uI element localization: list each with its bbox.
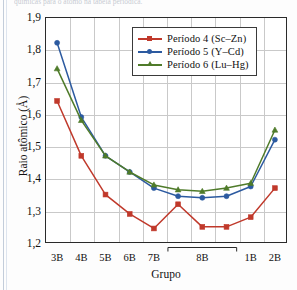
data-point-marker xyxy=(103,192,108,197)
data-point-marker xyxy=(55,40,60,45)
legend-label-periodo-5: Período 5 (Y–Cd) xyxy=(167,46,244,57)
data-point-marker xyxy=(152,226,157,231)
legend-label-periodo-4: Período 4 (Sc–Zn) xyxy=(167,33,246,44)
legend-label-periodo-6: Período 6 (Lu–Hg) xyxy=(167,59,249,70)
data-point-marker xyxy=(273,186,278,191)
data-point-marker xyxy=(224,194,229,199)
legend-swatch-periodo-6 xyxy=(138,60,162,70)
legend-swatch-periodo-5 xyxy=(138,47,162,57)
data-point-marker xyxy=(127,212,132,217)
legend-marker-icon xyxy=(147,36,152,41)
data-point-marker xyxy=(200,195,205,200)
data-point-marker xyxy=(55,99,60,104)
legend-item-periodo-4: Período 4 (Sc–Zn) xyxy=(138,32,249,45)
series-3 xyxy=(54,66,278,194)
data-point-marker xyxy=(176,194,181,199)
legend-swatch-periodo-4 xyxy=(138,34,162,44)
legend-item-periodo-5: Período 5 (Y–Cd) xyxy=(138,45,249,58)
data-point-marker xyxy=(200,224,205,229)
legend-item-periodo-6: Período 6 (Lu–Hg) xyxy=(138,58,249,71)
legend-marker-icon xyxy=(147,49,152,54)
series-1 xyxy=(55,99,278,231)
data-point-marker xyxy=(272,137,277,142)
group-8b-bracket xyxy=(168,248,237,252)
data-point-marker xyxy=(248,215,253,220)
figure-atomic-radius-chart: químicas para o átomo na tabela periódic… xyxy=(0,0,297,290)
data-point-marker xyxy=(54,66,60,71)
data-point-marker xyxy=(176,202,181,207)
chart-legend: Período 4 (Sc–Zn) Período 5 (Y–Cd) Perío… xyxy=(132,27,257,76)
data-point-marker xyxy=(272,127,278,132)
data-point-marker xyxy=(224,224,229,229)
series-line xyxy=(57,101,275,229)
data-point-marker xyxy=(79,153,84,158)
legend-marker-icon xyxy=(147,61,153,66)
